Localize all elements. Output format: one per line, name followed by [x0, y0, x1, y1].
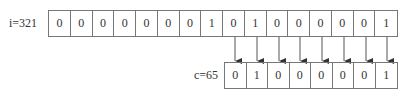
- bit-cell: 0: [290, 63, 312, 88]
- bit-cell: 1: [376, 63, 397, 88]
- char-variable-label: c=65: [194, 68, 218, 82]
- bit-cell: 0: [354, 63, 376, 88]
- bit-cell: 0: [268, 63, 290, 88]
- bit-cell: 0: [311, 63, 333, 88]
- bit-cell: 1: [247, 63, 269, 88]
- bit-cell: 0: [333, 63, 355, 88]
- bit-cell: 0: [225, 63, 247, 88]
- char-bit-row: 0 1 0 0 0 0 0 1: [224, 62, 398, 89]
